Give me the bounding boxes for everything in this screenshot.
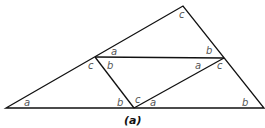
angle-label: a bbox=[150, 97, 156, 108]
angle-label: a bbox=[111, 46, 117, 57]
angle-label: c bbox=[179, 9, 185, 20]
angle-label: a bbox=[195, 60, 201, 71]
angle-label: c bbox=[135, 94, 141, 105]
angle-label: a bbox=[24, 97, 30, 108]
angle-label: c bbox=[88, 60, 94, 71]
angle-label: c bbox=[217, 60, 223, 71]
midline-top bbox=[95, 57, 224, 58]
angle-label: b bbox=[242, 97, 248, 108]
midline-left bbox=[95, 57, 134, 108]
midline-right bbox=[134, 58, 224, 108]
angle-label: b bbox=[206, 45, 212, 56]
figure-caption: (a) bbox=[124, 114, 141, 127]
angle-label: b bbox=[107, 60, 113, 71]
angle-label: b bbox=[117, 97, 123, 108]
triangle-diagram: c a b c b a c a b c a b (a) bbox=[0, 0, 265, 128]
